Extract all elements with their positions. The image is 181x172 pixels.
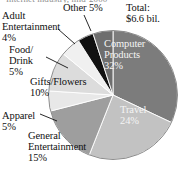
pie-chart-screenshot: Internet industry, mid-2000 Total: $6.6 … bbox=[0, 0, 181, 172]
slice-label-gifts-flowers: Gifts/Flowers 10% bbox=[30, 76, 86, 98]
slice-label-adult-entertainment: Adult Entertainment 4% bbox=[2, 10, 64, 43]
total-annotation: Total: $6.6 bil. bbox=[126, 2, 160, 24]
slice-label-other: Other 5% bbox=[63, 2, 103, 13]
slice-label-travel: Travel 24% bbox=[120, 104, 146, 126]
slice-label-general-entertainment: General Entertainment 15% bbox=[28, 130, 86, 163]
slice-label-food-drink: Food/ Drink 5% bbox=[9, 44, 33, 77]
leader-other bbox=[84, 15, 91, 31]
slice-label-apparel: Apparel 5% bbox=[2, 110, 35, 132]
slice-label-computer-products: Computer Products 32% bbox=[104, 38, 145, 71]
